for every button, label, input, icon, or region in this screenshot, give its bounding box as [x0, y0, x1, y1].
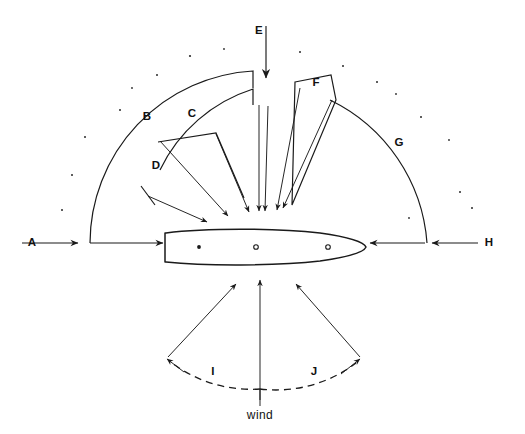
label-f: F: [312, 76, 319, 88]
sector-g-outer-arc: [330, 100, 427, 243]
points-of-sail-svg: A B C D E F G H I J wind: [0, 0, 525, 434]
wind-angle-dashed-arcs: [167, 359, 360, 390]
boat-hull: [165, 229, 366, 265]
label-g: G: [394, 136, 403, 148]
label-j: J: [311, 365, 318, 377]
label-h: H: [485, 236, 494, 248]
hull-marker-mid: [254, 245, 259, 250]
hull-marker-stern: [197, 245, 201, 249]
upper-converging-arrows: [148, 88, 332, 222]
label-b: B: [143, 110, 152, 122]
sector-d-wedge: [158, 133, 244, 198]
diagram-canvas: A B C D E F G H I J wind: [0, 0, 525, 434]
hull-marker-bow: [326, 245, 331, 250]
label-d: D: [152, 159, 161, 171]
label-e: E: [255, 24, 263, 36]
sector-b-outer-arc: [90, 71, 253, 243]
wind-label: wind: [246, 408, 273, 422]
lower-wind-arrows: [168, 280, 360, 400]
sector-c-arc: [160, 89, 253, 170]
sector-b-lower-terminus: [141, 186, 155, 205]
label-a: A: [28, 236, 37, 248]
label-c: C: [188, 107, 197, 119]
label-i: I: [211, 365, 214, 377]
